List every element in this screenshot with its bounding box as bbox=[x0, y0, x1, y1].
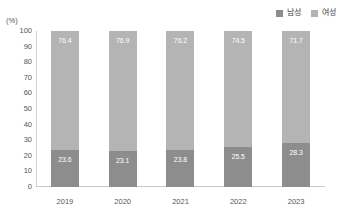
bar-group-2022[interactable]: 74.5 25.5 bbox=[209, 31, 267, 187]
bar-label-female: 76.4 bbox=[58, 37, 71, 44]
y-tick-80: 80 bbox=[24, 58, 32, 66]
bar-label-male: 25.5 bbox=[232, 153, 245, 160]
bar-segment-male[interactable]: 23.1 bbox=[109, 151, 137, 187]
legend-item-male[interactable]: 남성 bbox=[276, 9, 301, 17]
bar-stack: 71.7 28.3 bbox=[282, 31, 310, 187]
bar-group-2023[interactable]: 71.7 28.3 bbox=[267, 31, 325, 187]
x-tick-2022: 2022 bbox=[230, 197, 247, 206]
bar-segment-female[interactable]: 76.2 bbox=[166, 31, 194, 150]
legend-label-male: 남성 bbox=[287, 9, 301, 17]
bar-stack: 76.9 23.1 bbox=[109, 31, 137, 187]
bar-label-male: 23.6 bbox=[58, 156, 71, 163]
x-label-slot-2020: 2020 bbox=[94, 190, 152, 208]
x-tick-2021: 2021 bbox=[172, 197, 189, 206]
x-tick-2019: 2019 bbox=[57, 197, 74, 206]
legend-swatch-female bbox=[311, 10, 318, 17]
y-tick-10: 10 bbox=[24, 168, 32, 176]
bar-label-male: 28.3 bbox=[289, 149, 302, 156]
bar-segment-female[interactable]: 71.7 bbox=[282, 31, 310, 143]
bar-segment-female[interactable]: 76.9 bbox=[109, 31, 137, 151]
bar-segment-female[interactable]: 74.5 bbox=[224, 31, 252, 147]
legend-item-female[interactable]: 여성 bbox=[311, 9, 336, 17]
y-tick-0: 0 bbox=[28, 183, 32, 191]
y-tick-30: 30 bbox=[24, 136, 32, 144]
bar-label-female: 76.2 bbox=[174, 37, 187, 44]
y-tick-20: 20 bbox=[24, 152, 32, 160]
bar-label-female: 71.7 bbox=[289, 37, 302, 44]
x-label-slot-2019: 2019 bbox=[36, 190, 94, 208]
bar-stack: 76.2 23.8 bbox=[166, 31, 194, 187]
y-tick-70: 70 bbox=[24, 74, 32, 82]
y-tick-40: 40 bbox=[24, 121, 32, 129]
legend-label-female: 여성 bbox=[322, 9, 336, 17]
bar-label-female: 74.5 bbox=[232, 37, 245, 44]
bar-label-male: 23.8 bbox=[174, 156, 187, 163]
bar-group-2019[interactable]: 76.4 23.6 bbox=[36, 31, 94, 187]
x-label-slot-2022: 2022 bbox=[209, 190, 267, 208]
x-tick-2023: 2023 bbox=[288, 197, 305, 206]
bar-segment-female[interactable]: 76.4 bbox=[51, 31, 79, 150]
x-label-slot-2023: 2023 bbox=[267, 190, 325, 208]
bar-label-female: 76.9 bbox=[116, 37, 129, 44]
y-tick-90: 90 bbox=[24, 43, 32, 51]
y-tick-60: 60 bbox=[24, 90, 32, 98]
y-tick-50: 50 bbox=[24, 105, 32, 113]
chart-screenshot: 남성 여성 (%) 100 90 80 70 60 50 40 30 20 10… bbox=[0, 0, 342, 210]
bar-series-group: 76.4 23.6 76.9 23.1 bbox=[36, 31, 325, 187]
plot-area: 100 90 80 70 60 50 40 30 20 10 0 76.4 23… bbox=[36, 31, 325, 187]
y-axis-unit-label: (%) bbox=[6, 17, 18, 25]
y-tick-100: 100 bbox=[19, 27, 32, 35]
bar-stack: 74.5 25.5 bbox=[224, 31, 252, 187]
legend-swatch-male bbox=[276, 10, 283, 17]
bar-stack: 76.4 23.6 bbox=[51, 31, 79, 187]
bar-group-2020[interactable]: 76.9 23.1 bbox=[94, 31, 152, 187]
bar-label-male: 23.1 bbox=[116, 157, 129, 164]
bar-segment-male[interactable]: 28.3 bbox=[282, 143, 310, 187]
bar-segment-male[interactable]: 25.5 bbox=[224, 147, 252, 187]
bar-segment-male[interactable]: 23.8 bbox=[166, 150, 194, 187]
x-tick-2020: 2020 bbox=[114, 197, 131, 206]
bar-segment-male[interactable]: 23.6 bbox=[51, 150, 79, 187]
x-label-slot-2021: 2021 bbox=[152, 190, 210, 208]
bar-group-2021[interactable]: 76.2 23.8 bbox=[152, 31, 210, 187]
x-axis-labels: 2019 2020 2021 2022 2023 bbox=[36, 190, 325, 208]
chart-legend: 남성 여성 bbox=[276, 7, 336, 19]
